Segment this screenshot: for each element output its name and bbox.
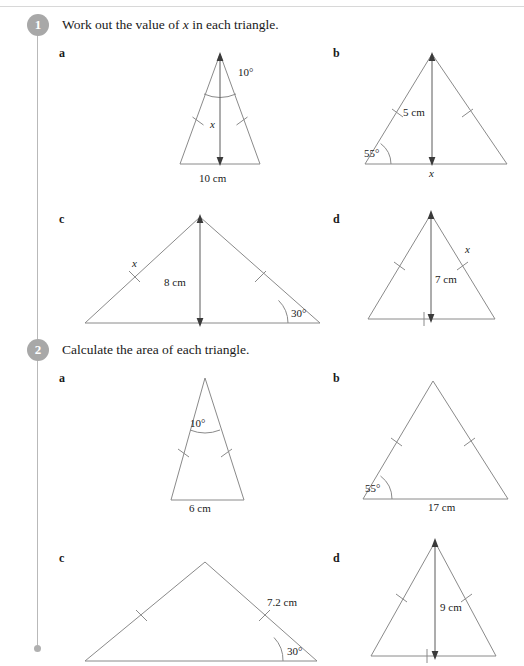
- apex-angle-arc-2a: [190, 430, 220, 433]
- part-label-2c: c: [59, 551, 64, 566]
- figure-1a: 10° x 10 cm: [158, 48, 288, 188]
- base-angle-label-2c: 30°: [287, 645, 302, 657]
- part-label-1a: a: [59, 46, 65, 61]
- margin-spine-end-dot: [34, 645, 41, 652]
- base-angle-label-1c: 30°: [291, 307, 306, 319]
- height-label-2d: 9 cm: [440, 601, 462, 613]
- base-angle-arc-2c: [274, 638, 283, 662]
- apex-angle-label-2a: 10°: [190, 417, 205, 429]
- base-angle-label-1b: 55°: [364, 147, 379, 159]
- question-prompt-1-text-b: in each triangle.: [189, 17, 279, 32]
- figure-1b: 55° 5 cm x: [355, 48, 520, 188]
- question-prompt-1-text-a: Work out the value of: [62, 17, 183, 32]
- height-label-1b: 5 cm: [403, 106, 425, 118]
- base-angle-arc-1b: [381, 144, 391, 165]
- base-angle-arc-2b: [381, 476, 393, 499]
- page-top-rule: [0, 6, 524, 7]
- base-angle-label-2b: 55°: [365, 482, 380, 494]
- question-prompt-1: Work out the value of x in each triangle…: [62, 17, 279, 33]
- base-label-1a: 10 cm: [199, 172, 227, 184]
- part-label-2b: b: [333, 371, 340, 386]
- figure-2d: 9 cm: [355, 528, 520, 663]
- height-label-1d: 7 cm: [435, 273, 457, 285]
- figure-2a: 10° 6 cm: [158, 373, 288, 513]
- base-label-2b: 17 cm: [428, 501, 456, 513]
- question-number-badge-1: 1: [27, 14, 49, 36]
- side-label-2c: 7.2 cm: [267, 596, 297, 608]
- question-prompt-2-text-a: Calculate the area of each triangle.: [62, 342, 249, 357]
- part-label-1c: c: [59, 212, 64, 227]
- height-label-1c: 8 cm: [164, 276, 186, 288]
- question-prompt-2: Calculate the area of each triangle.: [62, 342, 249, 358]
- part-label-2a: a: [59, 371, 65, 386]
- base-angle-arc-1c: [279, 300, 289, 323]
- part-label-1d: d: [333, 212, 340, 227]
- figure-2b: 55° 17 cm: [345, 373, 520, 513]
- apex-angle-label-1a: 10°: [238, 66, 253, 78]
- side-label-1c: x: [131, 257, 137, 269]
- figure-2c: 7.2 cm 30°: [80, 540, 330, 665]
- side-label-1d: x: [464, 243, 470, 255]
- part-label-1b: b: [333, 46, 340, 61]
- figure-1c: x 8 cm 30°: [80, 210, 330, 340]
- question-number-badge-2: 2: [27, 339, 49, 361]
- base-label-1b: x: [428, 167, 434, 179]
- height-label-1a: x: [209, 118, 215, 130]
- figure-1d: x 7 cm: [355, 206, 520, 336]
- part-label-2d: d: [333, 551, 340, 566]
- base-label-2a: 6 cm: [189, 502, 211, 514]
